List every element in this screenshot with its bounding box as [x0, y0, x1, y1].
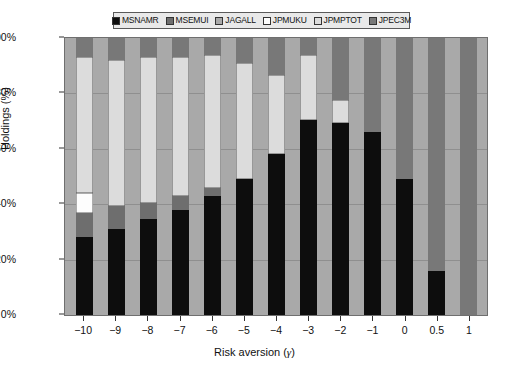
legend-item-msnamr[interactable]: MSNAMR	[112, 16, 159, 25]
legend-item-label: JPEC3M	[379, 16, 411, 25]
bar-segment-msemui	[76, 213, 93, 238]
y-axis-tick-mark	[59, 314, 64, 315]
legend-swatch-icon	[314, 17, 322, 25]
bar-column[interactable]	[428, 38, 445, 315]
legend-item-jpmptot[interactable]: JPMPTOT	[314, 16, 362, 25]
bar-column[interactable]	[108, 38, 125, 315]
x-axis-tick-mark	[244, 316, 245, 321]
bar-segment-jpec3m	[236, 38, 253, 63]
x-axis-tick-label: −6	[206, 324, 218, 336]
bar-segment-msnamr	[140, 219, 157, 315]
x-axis-tick-mark	[340, 316, 341, 321]
bar-segment-msnamr	[300, 120, 317, 315]
x-axis-tick-label: −8	[141, 324, 153, 336]
x-axis-tick-label: −1	[366, 324, 378, 336]
y-axis-tick-mark	[59, 92, 64, 93]
legend-swatch-icon	[263, 17, 271, 25]
x-axis-tick-label: 0	[402, 324, 408, 336]
bar-segment-jpec3m	[300, 38, 317, 55]
bar-series-container	[65, 38, 487, 315]
y-axis-tick-label: 0%	[0, 309, 16, 320]
bar-segment-msemui	[108, 206, 125, 230]
bar-segment-jpec3m	[428, 38, 445, 271]
x-axis-tick-label: 0.5	[429, 324, 444, 336]
bar-segment-msnamr	[172, 210, 189, 315]
bar-column[interactable]	[172, 38, 189, 315]
bar-segment-jpmptot	[140, 57, 157, 202]
x-axis-tick-mark	[308, 316, 309, 321]
x-axis-tick-mark	[372, 316, 373, 321]
bar-segment-jpec3m	[140, 38, 157, 57]
plot-area	[64, 37, 488, 316]
bar-segment-jpmptot	[268, 75, 285, 154]
bar-column[interactable]	[140, 38, 157, 315]
x-axis-label-prefix: Risk aversion (	[214, 346, 287, 358]
legend-swatch-icon	[215, 17, 223, 25]
y-axis-tick-mark	[59, 147, 64, 148]
bar-segment-msemui	[172, 196, 189, 210]
x-axis-tick-mark	[212, 316, 213, 321]
bar-segment-msnamr	[364, 132, 381, 315]
x-axis-tick-mark	[147, 316, 148, 321]
y-axis-tick-mark	[59, 258, 64, 259]
bar-segment-jpmptot	[172, 57, 189, 196]
bar-column[interactable]	[396, 38, 413, 315]
legend-item-label: JPMUKU	[273, 16, 307, 25]
bar-column[interactable]	[204, 38, 221, 315]
bar-segment-jpmptot	[76, 57, 93, 193]
legend-item-jpec3m[interactable]: JPEC3M	[369, 16, 411, 25]
bar-segment-jpmptot	[300, 55, 317, 120]
x-axis-tick-mark	[83, 316, 84, 321]
x-axis-label: Risk aversion (γ)	[0, 346, 509, 358]
legend-item-label: JPMPTOT	[324, 16, 362, 25]
y-axis-tick-label: 40%	[0, 198, 16, 209]
y-axis-tick-label: 60%	[0, 142, 16, 153]
x-axis-tick-mark	[405, 316, 406, 321]
y-axis-tick-label: 80%	[0, 87, 16, 98]
bar-segment-msnamr	[204, 196, 221, 315]
bar-column[interactable]	[268, 38, 285, 315]
bar-segment-jpec3m	[76, 38, 93, 57]
x-axis-tick-mark	[115, 316, 116, 321]
x-axis-tick-mark	[437, 316, 438, 321]
legend-item-label: JAGALL	[225, 16, 255, 25]
legend-item-label: MSNAMR	[122, 16, 159, 25]
bar-segment-msnamr	[108, 229, 125, 315]
bar-column[interactable]	[460, 38, 477, 315]
bar-segment-msnamr	[268, 154, 285, 315]
legend-item-jagall[interactable]: JAGALL	[215, 16, 255, 25]
bar-segment-jpmuku	[76, 193, 93, 212]
bar-segment-msnamr	[396, 179, 413, 315]
bar-column[interactable]	[76, 38, 93, 315]
bar-segment-jpec3m	[396, 38, 413, 179]
legend-swatch-icon	[369, 17, 377, 25]
x-axis-tick-label: −7	[174, 324, 186, 336]
bar-segment-jpec3m	[364, 38, 381, 132]
bar-column[interactable]	[332, 38, 349, 315]
bar-segment-jpec3m	[460, 38, 477, 315]
y-axis-tick-label: 100%	[0, 32, 16, 43]
bar-column[interactable]	[300, 38, 317, 315]
bar-segment-jpmptot	[204, 55, 221, 188]
x-axis-tick-mark	[276, 316, 277, 321]
bar-segment-jpmptot	[332, 100, 349, 122]
x-axis-tick-label: −5	[238, 324, 250, 336]
bar-segment-msnamr	[428, 271, 445, 315]
bar-segment-jpec3m	[108, 38, 125, 60]
x-axis-tick-label: −4	[270, 324, 282, 336]
bar-column[interactable]	[236, 38, 253, 315]
x-axis-tick-label: −3	[302, 324, 314, 336]
legend-item-label: MSEMUI	[176, 16, 209, 25]
bar-column[interactable]	[364, 38, 381, 315]
y-axis-tick-mark	[59, 37, 64, 38]
x-axis-tick-mark	[180, 316, 181, 321]
bar-segment-msnamr	[332, 123, 349, 316]
legend-swatch-icon	[112, 17, 120, 25]
bar-segment-jpec3m	[204, 38, 221, 55]
legend-item-jpmuku[interactable]: JPMUKU	[263, 16, 307, 25]
stacked-bar-chart: MSNAMRMSEMUIJAGALLJPMUKUJPMPTOTJPEC3M Ho…	[0, 0, 509, 380]
bar-segment-jpmptot	[236, 63, 253, 179]
x-axis-tick-mark	[469, 316, 470, 321]
bar-segment-jpmptot	[108, 60, 125, 205]
legend-item-msemui[interactable]: MSEMUI	[166, 16, 209, 25]
